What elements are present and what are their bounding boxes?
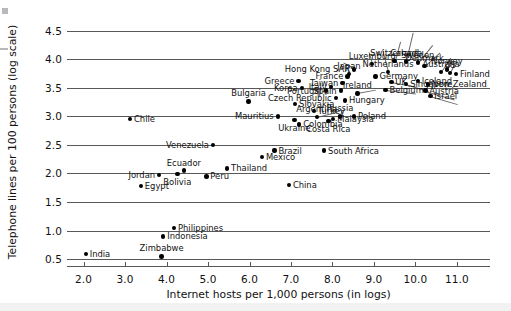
x-tick xyxy=(167,262,168,267)
data-point xyxy=(355,91,359,95)
x-tick-label: 11.0 xyxy=(437,273,477,285)
x-tick-label: 3.0 xyxy=(105,273,145,285)
y-tick-label: 3.5 xyxy=(18,82,62,94)
data-point xyxy=(161,234,165,238)
x-tick-label: 10.0 xyxy=(395,273,435,285)
data-point xyxy=(159,254,163,258)
x-axis-line xyxy=(67,266,490,267)
x-tick-label: 8.0 xyxy=(312,273,352,285)
point-label: Mauritius xyxy=(235,112,274,120)
data-point xyxy=(260,155,264,159)
data-point xyxy=(386,70,390,74)
x-tick xyxy=(374,262,375,267)
data-point xyxy=(175,172,179,176)
data-point xyxy=(338,114,342,118)
data-point xyxy=(454,72,458,76)
point-label: Zimbabwe xyxy=(140,244,184,252)
point-label: India xyxy=(90,250,111,258)
point-label: Hungary xyxy=(349,96,385,104)
x-tick-label: 6.0 xyxy=(230,273,270,285)
point-label: Brazil xyxy=(278,146,301,154)
x-tick xyxy=(415,262,416,267)
data-point xyxy=(225,166,229,170)
x-tick xyxy=(250,262,251,267)
point-label: Bolivia xyxy=(163,178,191,186)
data-point xyxy=(352,67,356,71)
y-tick-label: 0.5 xyxy=(18,253,62,265)
x-tick-label: 4.0 xyxy=(147,273,187,285)
data-point xyxy=(287,183,291,187)
point-label: Jordan xyxy=(128,171,155,179)
point-label: Poland xyxy=(358,112,386,120)
data-point xyxy=(383,88,387,92)
point-label: Thailand xyxy=(231,164,267,172)
data-point xyxy=(211,143,215,147)
data-point xyxy=(439,70,443,74)
data-point xyxy=(172,226,176,230)
chart-figure: Telephone lines per 100 persons (log sca… xyxy=(0,0,511,311)
point-label: Philippines xyxy=(178,223,223,231)
y-tick-label: 4.0 xyxy=(18,53,62,65)
point-label: US xyxy=(444,61,455,69)
data-point xyxy=(246,99,250,103)
data-point xyxy=(373,74,377,78)
y-tick-label: 2.0 xyxy=(18,167,62,179)
data-point xyxy=(345,74,349,78)
point-label: Ireland xyxy=(343,81,372,89)
point-label: China xyxy=(293,181,317,189)
data-point xyxy=(128,117,132,121)
x-tick-label: 9.0 xyxy=(354,273,394,285)
gridline-y xyxy=(67,259,490,260)
data-point xyxy=(292,118,296,122)
data-point xyxy=(182,168,186,172)
data-point xyxy=(272,148,276,152)
y-tick-label: 4.5 xyxy=(18,25,62,37)
y-tick-label: 1.5 xyxy=(18,196,62,208)
data-point xyxy=(423,88,427,92)
bottom-band xyxy=(0,303,511,311)
x-tick xyxy=(457,262,458,267)
y-tick-label: 1.0 xyxy=(18,225,62,237)
data-point xyxy=(334,96,338,100)
data-point xyxy=(352,114,356,118)
y-tick-label: 3.0 xyxy=(18,110,62,122)
x-tick-label: 2.0 xyxy=(64,273,104,285)
gridline-y xyxy=(67,202,490,203)
data-point xyxy=(416,79,420,83)
point-label: Venezuela xyxy=(166,141,209,149)
data-point xyxy=(392,59,396,63)
label-leader-line xyxy=(357,90,376,94)
point-label: Bulgaria xyxy=(231,89,266,97)
point-label: Peru xyxy=(210,172,229,180)
point-label: Indonesia xyxy=(167,232,208,240)
x-tick xyxy=(125,262,126,267)
data-point xyxy=(276,114,280,118)
data-point xyxy=(157,173,161,177)
point-label: Finland xyxy=(460,70,490,78)
x-tick xyxy=(84,262,85,267)
gridline-y xyxy=(67,231,490,232)
data-point xyxy=(139,184,143,188)
x-tick xyxy=(332,262,333,267)
data-point xyxy=(389,80,393,84)
x-tick-label: 5.0 xyxy=(188,273,228,285)
point-label: Israel xyxy=(434,91,457,99)
point-label: South Africa xyxy=(328,146,379,154)
point-label: Chile xyxy=(134,115,155,123)
plot-area: IndiaZimbabweIndonesiaPhilippinesEgyptJo… xyxy=(67,18,490,266)
point-label: Costa Rica xyxy=(306,125,350,133)
y-tick-label: 2.5 xyxy=(18,139,62,151)
data-point xyxy=(204,174,208,178)
data-point xyxy=(343,98,347,102)
data-point xyxy=(297,122,301,126)
data-point xyxy=(84,252,88,256)
gridline-y xyxy=(67,31,490,32)
data-point xyxy=(448,71,452,75)
edge-artifact-top xyxy=(2,8,8,14)
x-axis-title: Internet hosts per 1,000 persons (in log… xyxy=(67,288,490,301)
point-label: Ecuador xyxy=(167,158,201,166)
data-point xyxy=(322,148,326,152)
x-tick xyxy=(291,262,292,267)
x-tick xyxy=(208,262,209,267)
data-point xyxy=(326,119,330,123)
